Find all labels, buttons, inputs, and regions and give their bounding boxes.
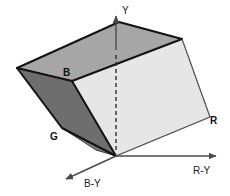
solid-faces-group (17, 22, 210, 156)
r-vertex-label: R (210, 115, 218, 126)
figure-container: Y R-Y B-Y B G R (0, 0, 230, 196)
color-solid-diagram: Y R-Y B-Y B G R (0, 0, 230, 196)
r-y-axis-label: R-Y (193, 165, 211, 176)
b-vertex-label: B (63, 67, 70, 78)
y-axis-label: Y (122, 5, 129, 16)
g-vertex-label: G (50, 131, 58, 142)
b-y-axis-line (66, 156, 116, 179)
b-y-axis-group (66, 156, 116, 179)
b-y-axis-label: B-Y (84, 178, 101, 189)
